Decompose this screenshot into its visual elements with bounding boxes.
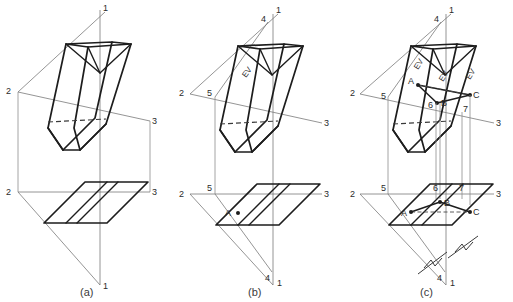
panel-c-prism-left-edge [393, 46, 411, 152]
panel-b-hidden-edge [220, 121, 278, 124]
panel-c-equal-distance-marks [418, 236, 478, 274]
panel-a-prism-vee-left [66, 44, 100, 73]
panel-a-oblique-lower [18, 192, 100, 285]
panel-c-label-B-plan: B [444, 198, 450, 208]
panel-a-label-2-lower: 2 [6, 187, 11, 197]
panel-c-caption: (c) [420, 286, 433, 298]
panel-b-label-A: A [225, 208, 231, 218]
panel-a-hidden-edge [48, 119, 106, 122]
panel-b-point-A-marker [236, 211, 240, 215]
panel-c-plan-outline [389, 184, 493, 225]
panel-c-label-6-front: 6 [428, 100, 433, 110]
panel-b-label-4-top: 4 [261, 14, 266, 24]
panel-b-foldline-45-lower [215, 194, 272, 272]
panel-a-label-1-top: 1 [103, 3, 108, 13]
panel-b-prism-inner-edge [246, 49, 260, 152]
panel-b-label-1-top: 1 [276, 5, 281, 15]
panel-c-point-A-front-marker [416, 83, 420, 87]
panel-a-foldline-23-upper [18, 92, 150, 121]
panel-a-label-3-lower: 3 [152, 187, 157, 197]
panel-a: 1 2 3 2 3 1 (a) [6, 3, 157, 298]
panel-b-label-5-upper: 5 [207, 88, 212, 98]
panel-c-label-2-lower: 2 [350, 189, 355, 199]
panel-a-plan-diag-1 [66, 182, 107, 223]
panel-b-label-2-upper: 2 [179, 88, 184, 98]
panel-a-label-1-bottom: 1 [103, 281, 108, 291]
panel-a-prism-top-face [66, 42, 131, 47]
panel-b-caption: (b) [248, 286, 261, 298]
panel-a-plan-diag-2 [77, 182, 118, 223]
panel-a-label-3-upper: 3 [152, 116, 157, 126]
panel-b-plan-diag-2 [249, 184, 290, 225]
panel-c-foldline-45-upper [388, 22, 441, 97]
panel-b-oblique-lower [190, 194, 273, 285]
panel-c-label-EV-1: EV [412, 57, 426, 71]
panel-b-foldline-23-upper [190, 94, 322, 123]
panel-c-plan-diag-2 [422, 184, 463, 225]
panel-a-prism-mid-edge [63, 42, 112, 150]
panel-c-label-2-upper: 2 [350, 88, 355, 98]
panel-b-label-EV: EV [240, 65, 254, 79]
panel-a-caption: (a) [80, 286, 93, 298]
panel-a-prism-left-edge [48, 44, 66, 150]
panel-c-label-4-top: 4 [434, 14, 439, 24]
panel-c-hidden-edge [393, 121, 451, 124]
panel-b-label-1-bottom: 1 [277, 278, 282, 288]
panel-c-label-C-front: C [473, 90, 480, 100]
panel-b-foldline-45-upper [215, 22, 268, 97]
panel-c-label-1-top: 1 [449, 5, 454, 15]
panel-b-plan-outline [216, 184, 320, 225]
panel-b-prism-right-edge [252, 46, 303, 152]
panel-c-oblique-upper [360, 14, 451, 94]
panel-c: 1 4 2 5 3 A B C 6 7 2 5 3 6 7 A B C 4 1 … [350, 5, 501, 298]
panel-b-label-4-bottom: 4 [265, 273, 270, 283]
panel-c-label-B-front: B [441, 98, 447, 108]
panel-c-prism-top-face [411, 44, 476, 49]
technical-drawing-figure: 1 2 3 2 3 1 (a) 1 [0, 0, 513, 302]
panel-b: 1 4 2 5 3 2 5 3 A 4 1 EV (b) [179, 5, 329, 298]
panel-c-label-5-lower: 5 [381, 183, 386, 193]
panel-c-point-A-plan-marker [409, 210, 413, 214]
panel-c-label-3-lower: 3 [496, 189, 501, 199]
panel-c-label-3-upper: 3 [496, 118, 501, 128]
panel-c-label-A-front: A [408, 76, 414, 86]
panel-c-label-7-plan: 7 [459, 183, 464, 193]
panel-b-prism-top-face [238, 44, 303, 49]
panel-c-label-7-front: 7 [463, 104, 468, 114]
panel-a-prism-inner-edge [74, 47, 88, 150]
panel-c-tick-line-1 [448, 236, 478, 258]
panel-c-label-C-plan: C [473, 207, 480, 217]
panel-b-label-3-lower: 3 [324, 189, 329, 199]
panel-b-label-3-upper: 3 [324, 118, 329, 128]
panel-a-oblique-upper [18, 12, 105, 92]
panel-a-plan-outline [44, 182, 148, 223]
panel-b-prism-left-edge [220, 46, 238, 152]
panel-b-label-2-lower: 2 [179, 189, 184, 199]
panel-c-label-4-bottom: 4 [437, 273, 442, 283]
panel-c-label-6-plan: 6 [433, 183, 438, 193]
panel-c-label-5-upper: 5 [381, 91, 386, 101]
panel-c-point-C-plan-marker [468, 210, 472, 214]
panel-c-point-B-plan-marker [438, 200, 442, 204]
panel-a-prism-right-edge [80, 44, 131, 150]
panel-b-label-5-lower: 5 [207, 183, 212, 193]
panel-c-label-1-bottom: 1 [450, 278, 455, 288]
panel-a-label-2-upper: 2 [6, 86, 11, 96]
panel-b-prism-mid-edge [235, 44, 284, 152]
panel-c-label-A-plan: A [401, 208, 407, 218]
